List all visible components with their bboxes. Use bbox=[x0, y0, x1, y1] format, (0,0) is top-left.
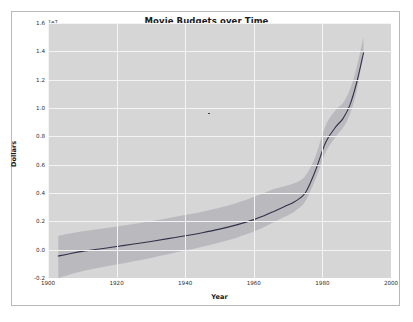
gridline-horizontal bbox=[48, 193, 391, 194]
y-tick-label: 0.0 bbox=[14, 247, 48, 253]
y-tick-label: 0.2 bbox=[14, 218, 48, 224]
gridline-horizontal bbox=[48, 51, 391, 52]
y-tick-label: 0.8 bbox=[14, 133, 48, 139]
x-tick-label: 1980 bbox=[302, 280, 342, 286]
gridline-vertical bbox=[117, 23, 118, 278]
x-tick-label: 1960 bbox=[234, 280, 274, 286]
x-tick-label: 2000 bbox=[371, 280, 411, 286]
y-tick-label: 1.4 bbox=[14, 48, 48, 54]
y-tick-label: 1.6 bbox=[14, 20, 48, 26]
gridline-horizontal bbox=[48, 221, 391, 222]
gridline-horizontal bbox=[48, 80, 391, 81]
chart-figure: Movie Budgets over Time 1e7 Dollars 1.61… bbox=[11, 11, 400, 306]
x-axis-label: Year bbox=[48, 293, 391, 301]
y-tick-label: 0.6 bbox=[14, 162, 48, 168]
gridline-vertical bbox=[254, 23, 255, 278]
gridline-horizontal bbox=[48, 23, 391, 24]
gridline-horizontal bbox=[48, 136, 391, 137]
y-tick-label: 0.4 bbox=[14, 190, 48, 196]
gridline-vertical bbox=[322, 23, 323, 278]
y-tick-label: 1.2 bbox=[14, 77, 48, 83]
gridline-horizontal bbox=[48, 250, 391, 251]
gridline-vertical bbox=[48, 23, 49, 278]
x-tick-label: 1920 bbox=[97, 280, 137, 286]
confidence-band bbox=[58, 36, 363, 278]
series-layer bbox=[48, 23, 391, 278]
y-axis-ticks: 1.61.41.21.00.80.60.40.20.0-0.2 bbox=[12, 23, 48, 278]
y-tick-label: 1.0 bbox=[14, 105, 48, 111]
x-axis-ticks: 190019201940196019802000 bbox=[48, 280, 391, 290]
gridline-vertical bbox=[185, 23, 186, 278]
plot-area bbox=[48, 23, 391, 278]
x-tick-label: 1940 bbox=[165, 280, 205, 286]
gridline-horizontal bbox=[48, 108, 391, 109]
gridline-horizontal bbox=[48, 165, 391, 166]
x-tick-label: 1900 bbox=[28, 280, 68, 286]
